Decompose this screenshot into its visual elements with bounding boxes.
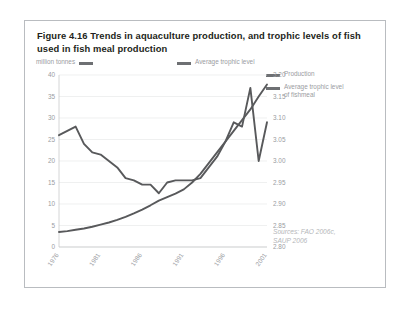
svg-text:10: 10 — [48, 200, 56, 207]
svg-text:3.05: 3.05 — [273, 136, 286, 143]
chart-y-axis-left-ticks: 0510152025303540 — [48, 71, 56, 250]
svg-text:1976: 1976 — [46, 251, 60, 267]
figure-card: Figure 4.16 Trends in aquaculture produc… — [24, 20, 386, 288]
svg-text:3.20: 3.20 — [273, 71, 286, 78]
legend-label-million-tonnes: million tonnes — [36, 58, 75, 66]
svg-text:5: 5 — [51, 222, 55, 229]
legend-item-average-trophic-level: Average trophic level — [177, 58, 255, 66]
chart-y-axis-right-ticks: 2.802.852.902.953.003.053.103.153.20 — [273, 71, 286, 250]
svg-text:1996: 1996 — [212, 251, 226, 267]
svg-text:40: 40 — [48, 71, 56, 78]
chart-svg: 0510152025303540 2.802.852.902.953.003.0… — [36, 69, 376, 277]
svg-text:2001: 2001 — [254, 251, 268, 267]
svg-text:3.15: 3.15 — [273, 93, 286, 100]
svg-text:1991: 1991 — [171, 251, 185, 267]
svg-text:15: 15 — [48, 179, 56, 186]
legend-swatch-million-tonnes — [79, 62, 93, 65]
legend-swatch-average-trophic-level — [177, 62, 191, 65]
svg-text:25: 25 — [48, 136, 56, 143]
chart-x-axis-ticks: 197619811986199119962001 — [46, 251, 268, 267]
svg-text:2.90: 2.90 — [273, 200, 286, 207]
svg-text:35: 35 — [48, 93, 56, 100]
svg-text:1986: 1986 — [129, 251, 143, 267]
svg-text:3.10: 3.10 — [273, 114, 286, 121]
svg-text:20: 20 — [48, 157, 56, 164]
svg-text:3.00: 3.00 — [273, 157, 286, 164]
svg-text:2.95: 2.95 — [273, 179, 286, 186]
legend-item-million-tonnes: million tonnes — [36, 58, 93, 66]
legend-label-average-trophic-level: Average trophic level — [195, 58, 255, 66]
svg-text:0: 0 — [51, 243, 55, 250]
figure-title: Figure 4.16 Trends in aquaculture produc… — [37, 30, 375, 55]
svg-text:30: 30 — [48, 114, 56, 121]
figure-sources: Sources: FAO 2006c, SAUP 2006 — [273, 227, 336, 245]
svg-text:1981: 1981 — [88, 251, 102, 267]
chart-plot-area: 0510152025303540 2.802.852.902.953.003.0… — [36, 69, 376, 277]
chart-series — [59, 84, 267, 231]
chart-gridlines — [59, 75, 267, 247]
